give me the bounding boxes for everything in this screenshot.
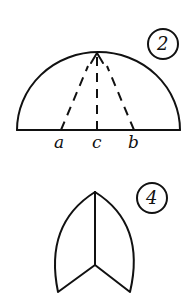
diagram-canvas: a c b 2 4: [0, 0, 191, 307]
figure-number-4: 4: [145, 187, 157, 208]
fold-line-b: [107, 66, 134, 130]
semicircle-arc: [17, 52, 180, 130]
label-b: b: [128, 132, 139, 152]
label-c: c: [92, 132, 102, 152]
figure-4: 4: [55, 183, 167, 292]
figure-2: a c b 2: [17, 29, 180, 152]
right-petal: [95, 192, 134, 292]
label-a: a: [54, 132, 64, 152]
figure-number-2: 2: [156, 33, 168, 54]
left-petal: [55, 192, 95, 292]
fold-line-a: [61, 66, 88, 130]
